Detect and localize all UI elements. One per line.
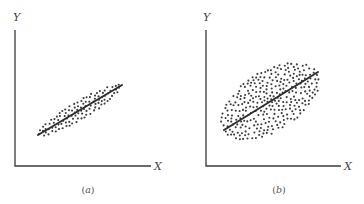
data-point xyxy=(248,93,250,95)
data-point xyxy=(308,86,310,88)
data-point xyxy=(259,91,261,93)
data-point xyxy=(76,101,78,103)
data-point xyxy=(225,130,227,132)
data-point xyxy=(88,108,90,110)
data-point xyxy=(250,95,252,97)
data-point xyxy=(252,106,254,108)
data-point xyxy=(231,131,233,133)
data-point xyxy=(251,137,253,139)
data-point xyxy=(107,100,109,102)
data-point xyxy=(77,117,79,119)
data-point xyxy=(296,117,298,119)
data-point xyxy=(288,81,290,83)
data-point xyxy=(303,109,305,111)
data-point xyxy=(288,71,290,73)
data-point xyxy=(55,126,57,128)
data-point xyxy=(295,91,297,93)
data-point xyxy=(68,121,70,123)
data-point xyxy=(278,84,280,86)
data-point xyxy=(303,86,305,88)
data-point xyxy=(39,129,41,131)
data-point xyxy=(293,113,295,115)
data-point xyxy=(227,114,229,116)
data-point xyxy=(278,109,280,111)
data-point xyxy=(276,92,278,94)
data-point xyxy=(252,89,254,91)
data-point xyxy=(252,97,254,99)
data-point xyxy=(265,122,267,124)
data-point xyxy=(283,119,285,121)
data-point xyxy=(273,66,275,68)
data-point xyxy=(104,103,106,105)
data-point xyxy=(83,97,85,99)
data-point xyxy=(282,126,284,128)
data-point xyxy=(243,97,245,99)
data-point xyxy=(116,91,118,93)
data-point xyxy=(263,96,265,98)
data-point xyxy=(238,90,240,92)
data-point xyxy=(301,102,303,104)
data-point xyxy=(299,109,301,111)
data-point xyxy=(275,76,277,78)
data-point xyxy=(277,116,279,118)
data-point xyxy=(305,64,307,66)
data-point xyxy=(291,90,293,92)
data-point xyxy=(296,63,298,65)
data-point xyxy=(259,82,261,84)
data-point xyxy=(308,103,310,105)
data-point xyxy=(68,105,70,107)
data-point xyxy=(309,95,311,97)
data-point xyxy=(283,79,285,81)
data-point xyxy=(266,85,268,87)
data-point xyxy=(94,103,96,105)
data-point xyxy=(240,85,242,87)
data-point xyxy=(304,100,306,102)
data-point xyxy=(102,92,104,94)
data-point xyxy=(259,87,261,89)
data-point xyxy=(89,113,91,115)
data-point xyxy=(298,99,300,101)
data-point xyxy=(74,107,76,109)
data-point xyxy=(249,85,251,87)
data-point xyxy=(254,82,256,84)
data-point xyxy=(271,133,273,135)
data-point xyxy=(275,71,277,73)
data-point xyxy=(236,96,238,98)
data-point xyxy=(302,74,304,76)
data-point xyxy=(224,107,226,109)
data-point xyxy=(257,114,259,116)
data-point xyxy=(305,74,307,76)
data-point xyxy=(59,112,61,114)
data-point xyxy=(294,69,296,71)
data-point xyxy=(275,120,277,122)
data-point xyxy=(58,128,60,130)
data-point xyxy=(260,123,262,125)
data-point xyxy=(252,79,254,81)
data-point xyxy=(278,100,280,102)
data-point xyxy=(93,109,95,111)
data-point xyxy=(259,130,261,132)
data-point xyxy=(270,69,272,71)
data-point xyxy=(247,83,249,85)
data-point xyxy=(231,114,233,116)
data-point xyxy=(221,113,223,115)
data-point xyxy=(96,92,98,94)
data-point xyxy=(81,113,83,115)
data-point xyxy=(259,98,261,100)
data-point xyxy=(284,73,286,75)
data-point xyxy=(277,127,279,129)
data-point xyxy=(271,91,273,93)
data-point xyxy=(285,85,287,87)
y-axis-label-b: Y xyxy=(203,11,212,24)
data-point xyxy=(71,110,73,112)
data-point xyxy=(261,101,263,103)
data-point xyxy=(85,101,87,103)
data-point xyxy=(242,83,244,85)
data-point xyxy=(253,124,255,126)
data-point xyxy=(269,95,271,97)
data-point xyxy=(266,82,268,84)
data-point xyxy=(82,103,84,105)
data-point xyxy=(232,104,234,106)
data-point xyxy=(239,110,241,112)
data-point xyxy=(55,130,57,132)
